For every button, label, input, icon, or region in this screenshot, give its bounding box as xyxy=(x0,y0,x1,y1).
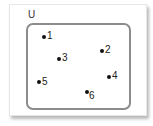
universal-set-label: U xyxy=(28,10,35,20)
element-dot-1 xyxy=(42,35,46,39)
element-dot-5 xyxy=(37,80,41,84)
element-label-4: 4 xyxy=(112,71,118,81)
element-dot-3 xyxy=(57,57,61,61)
element-label-5: 5 xyxy=(42,77,48,87)
element-label-3: 3 xyxy=(62,53,68,63)
element-label-6: 6 xyxy=(89,91,95,101)
element-dot-2 xyxy=(100,49,104,53)
element-dot-4 xyxy=(107,75,111,79)
element-label-1: 1 xyxy=(47,31,53,41)
element-label-2: 2 xyxy=(105,45,111,55)
